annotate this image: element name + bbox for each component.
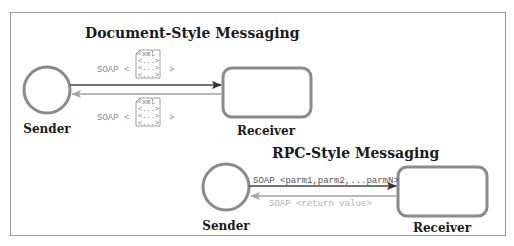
svg-text:<...>: <...> — [138, 71, 159, 79]
rpc-receiver-node — [398, 167, 487, 216]
rpc-style-section: RPC-Style Messaging Sender Receiver SOAP… — [202, 145, 487, 235]
document-response-prefix: SOAP < — [97, 113, 129, 123]
document-request-suffix: > — [169, 65, 174, 75]
document-receiver-label: Receiver — [237, 124, 296, 138]
document-request-prefix: SOAP < — [97, 65, 129, 75]
document-style-section: Document-Style Messaging Sender Receiver… — [23, 25, 311, 138]
svg-text:<...>: <...> — [138, 119, 159, 127]
xml-document-icon: xml <...> <...> <...> — [136, 50, 160, 79]
rpc-request-label: SOAP <parm1,parm2,...parmN> — [253, 176, 399, 186]
document-sender-label: Sender — [23, 122, 71, 136]
rpc-style-title: RPC-Style Messaging — [272, 145, 439, 161]
document-receiver-node — [223, 68, 311, 117]
document-request-message: SOAP < xml <...> <...> <...> > — [97, 50, 174, 79]
rpc-response-label: SOAP <return value> — [269, 199, 372, 209]
document-sender-node — [24, 67, 70, 113]
rpc-sender-label: Sender — [202, 219, 250, 233]
document-response-message: SOAP < xml <...> <...> <...> > — [97, 98, 174, 127]
rpc-sender-node — [203, 164, 249, 210]
rpc-receiver-label: Receiver — [413, 221, 472, 235]
document-style-title: Document-Style Messaging — [85, 25, 300, 41]
messaging-diagram: Document-Style Messaging Sender Receiver… — [0, 0, 514, 246]
document-response-suffix: > — [169, 113, 174, 123]
xml-document-icon: xml <...> <...> <...> — [136, 98, 160, 127]
